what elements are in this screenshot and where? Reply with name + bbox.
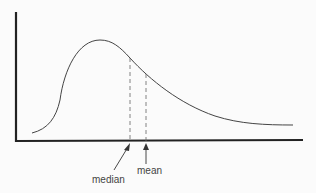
- median-arrowhead-icon: [124, 143, 130, 151]
- skewed-distribution-diagram: median mean: [0, 0, 316, 193]
- median-arrow: [114, 147, 128, 170]
- mean-arrowhead-icon: [143, 143, 149, 150]
- median-label: median: [92, 174, 125, 185]
- x-axis: [15, 140, 303, 141]
- mean-label: mean: [137, 165, 162, 176]
- distribution-curve: [32, 40, 293, 133]
